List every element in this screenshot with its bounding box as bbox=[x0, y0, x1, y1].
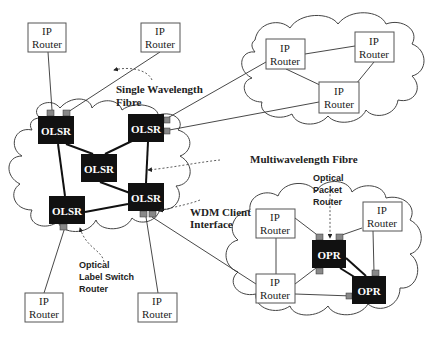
ip-router-label: IP bbox=[270, 211, 280, 223]
olsr-node-4[interactable]: OLSR bbox=[128, 183, 164, 211]
ip-router-label: IP bbox=[280, 42, 290, 54]
opr-label: OPR bbox=[357, 285, 381, 297]
network-diagram: OLSR OLSR OLSR OLSR OLSR OPR OPR bbox=[0, 0, 437, 341]
ip-router-label: IP bbox=[39, 295, 49, 307]
olsr-node-2[interactable]: OLSR bbox=[128, 114, 164, 142]
ip-router-label: IP bbox=[377, 204, 387, 216]
ip-router-opr-a[interactable]: IP Router bbox=[256, 209, 295, 238]
opr-label: OPR bbox=[317, 249, 341, 261]
olsr-label: OLSR bbox=[131, 123, 162, 135]
ip-router-cloud-c[interactable]: IP Router bbox=[319, 82, 359, 113]
ip-router-top-mid[interactable]: IP Router bbox=[141, 23, 180, 52]
single-wavelength-label: Single Wavelength bbox=[116, 83, 203, 95]
ip-router-label: Router bbox=[32, 38, 62, 50]
olsr-label: OLSR bbox=[52, 205, 83, 217]
olsr-caption-3: Router bbox=[79, 284, 108, 294]
single-wavelength-label-2: Fibre bbox=[116, 96, 142, 108]
opr-node-1[interactable]: OPR bbox=[312, 240, 346, 268]
ip-router-label: Router bbox=[142, 308, 172, 320]
ip-router-label: IP bbox=[270, 276, 280, 288]
ip-router-top-left[interactable]: IP Router bbox=[28, 23, 66, 52]
olsr-node-5[interactable]: OLSR bbox=[49, 196, 85, 224]
ip-router-bottom-left[interactable]: IP Router bbox=[25, 293, 63, 322]
olsr-label: OLSR bbox=[84, 163, 115, 175]
ip-router-label: Router bbox=[270, 55, 300, 67]
ip-router-label: Router bbox=[260, 289, 290, 301]
opr-caption-3: Router bbox=[313, 197, 342, 207]
ip-router-opr-c[interactable]: IP Router bbox=[256, 274, 295, 303]
ip-router-cloud-a[interactable]: IP Router bbox=[266, 39, 305, 69]
ip-router-label: Router bbox=[367, 217, 397, 229]
ip-router-label: IP bbox=[42, 25, 52, 37]
ip-router-label: IP bbox=[334, 85, 344, 97]
olsr-label: OLSR bbox=[131, 192, 162, 204]
ip-router-label: Router bbox=[324, 98, 354, 110]
ip-router-label: IP bbox=[152, 295, 162, 307]
olsr-caption-2: Label Switch bbox=[79, 272, 134, 282]
wdm-label: WDM Client bbox=[190, 206, 251, 218]
ip-router-bottom-mid[interactable]: IP Router bbox=[138, 293, 177, 322]
olsr-node-1[interactable]: OLSR bbox=[38, 116, 74, 144]
opr-caption-2: Packet bbox=[313, 185, 342, 195]
olsr-label: OLSR bbox=[41, 125, 72, 137]
olsr-node-3[interactable]: OLSR bbox=[81, 154, 117, 182]
ip-router-label: Router bbox=[145, 38, 175, 50]
multiwavelength-label: Multiwavelength Fibre bbox=[250, 153, 358, 165]
ip-router-label: IP bbox=[369, 35, 379, 47]
opr-caption: Optical bbox=[313, 173, 344, 183]
olsr-caption: Optical bbox=[79, 260, 110, 270]
ip-router-cloud-b[interactable]: IP Router bbox=[355, 32, 394, 62]
ip-router-opr-b[interactable]: IP Router bbox=[363, 202, 402, 231]
olsr-nodes: OLSR OLSR OLSR OLSR OLSR bbox=[38, 114, 164, 224]
ip-router-label: IP bbox=[155, 25, 165, 37]
ip-router-label: Router bbox=[29, 308, 59, 320]
ip-router-label: Router bbox=[359, 48, 389, 60]
wdm-label-2: Interface bbox=[190, 218, 233, 230]
opr-node-2[interactable]: OPR bbox=[352, 276, 386, 304]
ip-router-label: Router bbox=[260, 224, 290, 236]
